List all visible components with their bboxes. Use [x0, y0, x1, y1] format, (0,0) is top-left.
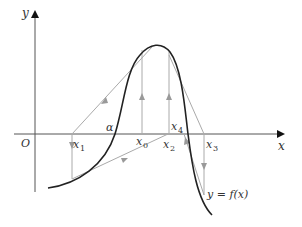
- svg-text:x: x: [163, 138, 170, 151]
- point-label-x4: x 4: [171, 120, 183, 135]
- arrow-right-icon: [121, 158, 128, 163]
- svg-text:4: 4: [178, 126, 183, 135]
- curve-label: y = f(x): [206, 188, 248, 201]
- point-label-x1: x 1: [73, 138, 85, 153]
- iteration-lines: [72, 47, 204, 195]
- point-label-x2: x 2: [163, 138, 175, 153]
- newton-iteration-diagram: y x O α x 1 x 0 x 2 x 3 x 4 y = f(x): [0, 0, 302, 227]
- svg-text:x: x: [171, 120, 178, 133]
- svg-text:x: x: [73, 138, 80, 151]
- arrow-up-icon: [166, 93, 172, 100]
- axes: [14, 12, 283, 192]
- y-axis-label: y: [21, 6, 29, 20]
- svg-text:3: 3: [213, 144, 218, 153]
- svg-text:0: 0: [143, 141, 148, 150]
- point-label-x0: x 0: [136, 135, 148, 150]
- svg-text:1: 1: [80, 144, 85, 153]
- angle-label: α: [106, 121, 114, 134]
- origin-label: O: [21, 137, 30, 150]
- svg-text:2: 2: [170, 144, 175, 153]
- point-label-x3: x 3: [206, 138, 218, 153]
- arrow-down-icon: [201, 163, 207, 170]
- svg-text:x: x: [136, 135, 143, 148]
- svg-text:x: x: [206, 138, 213, 151]
- arrow-up-icon: [139, 93, 145, 100]
- direction-arrows: [69, 93, 207, 170]
- x-axis-label: x: [278, 139, 285, 153]
